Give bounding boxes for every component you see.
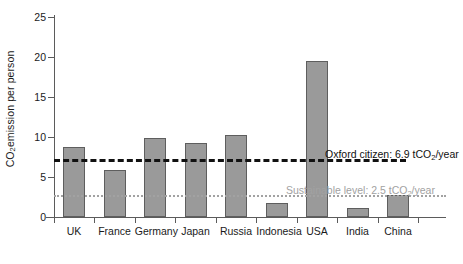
bar — [347, 208, 369, 217]
bar — [144, 138, 166, 217]
bar — [225, 135, 247, 217]
x-axis-category-label: Japan — [175, 225, 216, 237]
oxford-label-post: /year — [435, 148, 458, 160]
x-axis-category-label: UK — [54, 225, 95, 237]
x-axis-category-label: France — [94, 225, 135, 237]
bar — [63, 147, 85, 217]
x-axis-category-label: India — [337, 225, 378, 237]
x-axis-tick — [54, 218, 55, 223]
x-axis-tick — [418, 218, 419, 223]
bar — [266, 203, 288, 217]
x-axis-tick — [175, 218, 176, 223]
x-axis-tick — [297, 218, 298, 223]
x-axis-category-label: USA — [297, 225, 338, 237]
y-axis-tick-label: 0 — [12, 212, 46, 222]
x-axis-tick — [135, 218, 136, 223]
oxford-citizen-label: Oxford citizen: 6.9 tCO2/year — [325, 148, 459, 162]
bar — [104, 170, 126, 217]
y-axis-tick-label: 10 — [12, 132, 46, 142]
x-axis-tick — [256, 218, 257, 223]
x-axis-tick — [337, 218, 338, 223]
y-axis-title: CO2 emission per person — [0, 0, 20, 218]
sustainable-label-post: /year — [412, 184, 435, 196]
sustainable-label-subscript: 2 — [407, 189, 411, 198]
x-axis-tick — [94, 218, 95, 223]
x-axis-tick — [378, 218, 379, 223]
oxford-label-subscript: 2 — [431, 153, 435, 162]
chart-container: CO2 emission per person 0510152025 Oxfor… — [0, 0, 463, 264]
x-axis-category-label: China — [378, 225, 419, 237]
oxford-label-pre: Oxford citizen: 6.9 tCO — [325, 148, 431, 160]
y-axis-tick-label: 5 — [12, 172, 46, 182]
x-axis-category-label: Indonesia — [256, 225, 297, 237]
y-axis-title-subscript: 2 — [8, 147, 17, 151]
x-axis-category-label: Germany — [135, 225, 176, 237]
x-axis-tick — [216, 218, 217, 223]
y-axis-tick-label: 15 — [12, 92, 46, 102]
sustainable-level-label: Sustainable level: 2.5 tCO2/year — [286, 184, 435, 198]
x-axis-category-label: Russia — [216, 225, 257, 237]
x-axis-line — [46, 217, 446, 218]
sustainable-label-pre: Sustainable level: 2.5 tCO — [286, 184, 407, 196]
y-axis-title-pre: CO — [4, 151, 16, 167]
y-axis-tick-label: 25 — [12, 12, 46, 22]
bar — [185, 143, 207, 217]
y-axis-tick-label: 20 — [12, 52, 46, 62]
